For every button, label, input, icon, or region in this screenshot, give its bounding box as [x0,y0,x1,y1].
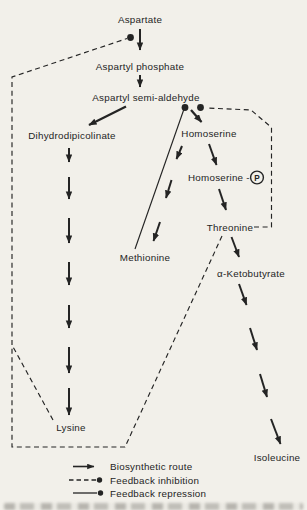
node-alpha-ketobutyrate: α-Ketobutyrate [217,268,285,279]
legend-inhibition-dot-icon [97,477,102,482]
phosphate-symbol: P [251,171,264,184]
pathway-svg: Aspartate Aspartyl phosphate Aspartyl se… [0,0,307,510]
repression-dot-homoserine-step [182,104,189,111]
legend: Biosynthetic route Feedback inhibition F… [69,461,206,499]
legend-row-biosynthetic-route: Biosynthetic route [73,461,193,472]
arrow-semialdehyde-to-homoserine [191,110,202,122]
arrow-homoserine-p-to-threonine [219,189,226,210]
legend-repression-dot-icon [98,490,103,495]
repression-methionine-line [135,109,184,249]
arrow-threonine-to-ketobutyrate [232,237,240,257]
chain-arrow [271,419,281,444]
node-aspartate: Aspartate [118,14,162,25]
node-methionine: Methionine [120,252,171,263]
chain-arrow [250,328,257,350]
legend-row-feedback-repression: Feedback repression [73,488,206,499]
phosphate-letter: P [254,174,260,183]
legend-label-biosynthetic-route: Biosynthetic route [110,461,193,472]
legend-row-feedback-inhibition: Feedback inhibition [69,475,199,486]
node-homoserine-phosphate: Homoserine - [188,172,250,183]
chain-arrow [239,284,247,305]
arrow-semialdehyde-to-dihydrodipicolinate [89,107,126,126]
node-dihydrodipicolinate: Dihydrodipicolinate [28,130,116,141]
node-homoserine: Homoserine [181,128,237,139]
inhibition-dot-homoserine-step [197,104,204,111]
legend-label-feedback-inhibition: Feedback inhibition [110,475,199,486]
node-lysine: Lysine [56,422,86,433]
chain-arrow [260,374,267,397]
chain-arrow [154,222,161,241]
node-isoleucine: Isoleucine [254,452,301,463]
chain-arrow [177,146,183,159]
node-aspartyl-semi-aldehyde: Aspartyl semi-aldehyde [92,92,200,103]
arrow-homoserine-to-homoserine-p [209,144,217,165]
inhibition-lysine-spur [12,345,53,420]
pathway-diagram: Aspartate Aspartyl phosphate Aspartyl se… [0,0,307,510]
cropped-caption-line [4,503,303,510]
arrow-chain-homoserine-to-methionine [154,146,183,241]
legend-label-feedback-repression: Feedback repression [110,488,206,499]
inhibition-threonine-homoserine-loop [206,108,272,227]
node-threonine: Threonine [207,222,254,233]
node-aspartyl-phosphate: Aspartyl phosphate [96,61,185,72]
feedback-repression-lines [135,104,188,249]
arrow-chain-ketobutyrate-to-isoleucine [239,284,281,444]
chain-arrow [166,180,172,198]
inhibition-dot-aspartokinase [127,34,134,41]
